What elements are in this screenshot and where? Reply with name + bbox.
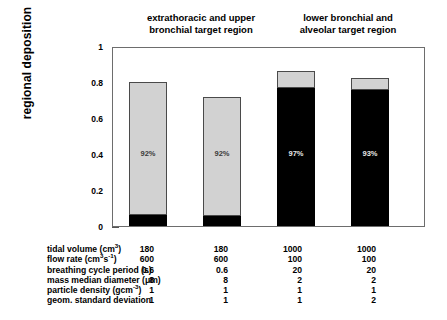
- table-cell: 1: [330, 285, 376, 295]
- y-axis-tick-label: 1: [73, 42, 103, 52]
- bar-group: 92%: [203, 97, 241, 226]
- bar-percentage-label: 93%: [351, 149, 389, 158]
- table-cell: 1: [182, 295, 228, 305]
- table-cell: 1: [256, 285, 302, 295]
- table-row: tidal volume (cm3)18018010001000: [0, 244, 447, 254]
- bar-group: 93%: [351, 78, 389, 226]
- y-axis-tick-label: 0.4: [73, 150, 103, 160]
- table-cell: 2: [256, 275, 302, 285]
- table-row: particle density (gcm-3)1111: [0, 285, 447, 295]
- table-cell: 8: [182, 275, 228, 285]
- table-cell: 100: [330, 254, 376, 264]
- group-header-alveolar: lower bronchial and alveolar target regi…: [283, 12, 413, 35]
- table-cell: 1: [182, 285, 228, 295]
- table-row: flow rate (cm3s-1)600600100100: [0, 254, 447, 264]
- bar-segment-lower: [203, 216, 241, 226]
- group-header-line: alveolar target region: [283, 24, 413, 36]
- table-cell: 0.6: [182, 265, 228, 275]
- bar-percentage-label: 97%: [277, 149, 315, 158]
- table-cell: 180: [182, 244, 228, 254]
- y-axis-tick-label: 0: [73, 222, 103, 232]
- table-row: breathing cycle period (s)0.60.62020: [0, 265, 447, 275]
- parameter-table: tidal volume (cm3)18018010001000flow rat…: [0, 244, 447, 306]
- group-header-line: extrathoracic and upper: [136, 12, 266, 24]
- group-header-line: bronchial target region: [136, 24, 266, 36]
- bar-segment-lower: [351, 90, 389, 226]
- table-cell: 100: [256, 254, 302, 264]
- bar-segment-upper: [277, 71, 315, 88]
- table-cell: 180: [108, 244, 154, 254]
- table-cell: 1: [256, 295, 302, 305]
- bar-group: 92%: [129, 82, 167, 226]
- table-cell: 20: [256, 265, 302, 275]
- table-cell: 600: [182, 254, 228, 264]
- y-axis-tick-label: 0.8: [73, 78, 103, 88]
- bar-percentage-label: 92%: [203, 149, 241, 158]
- table-cell: 1000: [330, 244, 376, 254]
- table-cell: 1: [108, 295, 154, 305]
- table-row: geom. standard deviation1112: [0, 295, 447, 305]
- bar-segment-upper: [351, 78, 389, 90]
- table-cell: 8: [108, 275, 154, 285]
- y-axis-tick-mark: [112, 227, 119, 228]
- table-cell: 2: [330, 295, 376, 305]
- bar-group: 97%: [277, 71, 315, 226]
- table-row: mass median diameter (μm)8822: [0, 275, 447, 285]
- y-axis-label: regional deposition: [20, 0, 34, 138]
- y-axis-tick-label: 0.2: [73, 186, 103, 196]
- bar-segment-lower: [129, 215, 167, 226]
- table-cell: 0.6: [108, 265, 154, 275]
- table-cell: 2: [330, 275, 376, 285]
- table-cell: 600: [108, 254, 154, 264]
- bar-percentage-label: 92%: [129, 149, 167, 158]
- group-headers: extrathoracic and upper bronchial target…: [0, 12, 447, 44]
- table-cell: 1: [108, 285, 154, 295]
- table-cell: 20: [330, 265, 376, 275]
- group-header-line: lower bronchial and: [283, 12, 413, 24]
- group-header-extrathoracic: extrathoracic and upper bronchial target…: [136, 12, 266, 35]
- y-axis-tick-label: 0.6: [73, 114, 103, 124]
- plot-area: 92%92%97%93%: [112, 47, 425, 227]
- table-cell: 1000: [256, 244, 302, 254]
